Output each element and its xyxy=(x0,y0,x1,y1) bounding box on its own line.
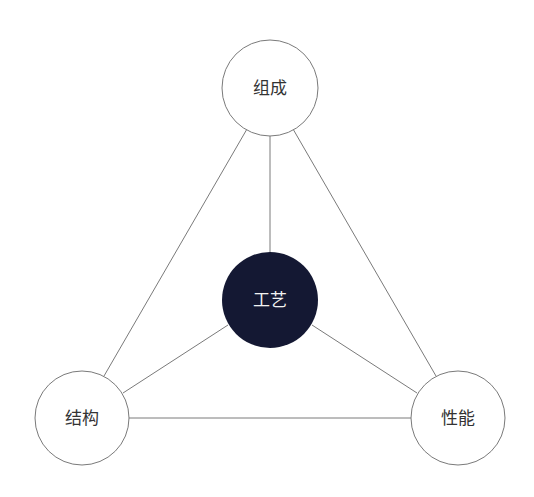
node-top-label: 组成 xyxy=(253,78,287,98)
diagram-canvas: 组成 工艺 结构 性能 xyxy=(0,0,534,497)
node-center: 工艺 xyxy=(222,252,318,348)
edge-center-right xyxy=(312,325,417,393)
node-left: 结构 xyxy=(35,371,129,465)
node-right-label: 性能 xyxy=(441,408,475,428)
node-top: 组成 xyxy=(222,40,318,136)
edge-center-left xyxy=(123,325,228,393)
node-left-label: 结构 xyxy=(65,408,99,428)
node-right: 性能 xyxy=(411,371,505,465)
edge-top-left xyxy=(104,129,247,376)
node-center-label: 工艺 xyxy=(253,290,287,310)
edge-top-right xyxy=(293,129,436,376)
